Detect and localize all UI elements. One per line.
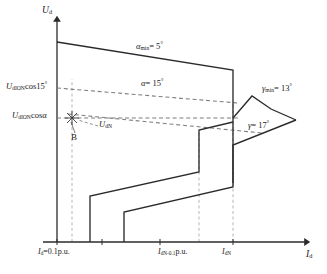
operating-point-b-marker	[65, 111, 79, 125]
alpha-15-label: α= 15°	[141, 78, 163, 87]
u-dn-label: UdN	[99, 120, 112, 130]
solid-characteristics	[57, 42, 296, 242]
reference-gridlines	[72, 79, 233, 242]
y-axis-title: Ud	[42, 6, 52, 16]
vi-characteristic-plot	[0, 0, 327, 274]
alpha-min-label: αmin= 5°	[136, 41, 163, 51]
vdcol-lower-curve	[124, 120, 296, 242]
u-dion-cos-alpha-label: UdIONcosα	[12, 111, 47, 121]
gamma-17-label: γ= 17°	[248, 120, 269, 129]
figure-container: Ud Id αmin= 5° α= 15° γmin= 13° γ= 17° U…	[0, 0, 327, 274]
gamma-min-curve	[233, 96, 296, 120]
axes	[43, 20, 306, 245]
u-dionr-cos15-label: UdIONcos15°	[6, 81, 47, 91]
x-axis-title: Id	[306, 250, 312, 260]
x-tick-label-idn: IdN	[222, 248, 231, 256]
gamma-min-label: γmin= 13°	[262, 83, 292, 93]
x-tick-label-id-0p1: Id=0.1p.u.	[38, 248, 70, 256]
alpha-min-curve	[57, 42, 233, 183]
dashed-characteristics	[57, 88, 262, 133]
u-dn-leader	[78, 120, 98, 126]
vdcol-upper-curve	[90, 122, 233, 242]
x-tick-label-idn-minus-0p1: IdN-0.1p.u.	[158, 248, 187, 256]
alpha-15-line	[57, 88, 238, 103]
operating-point-b-label: B	[71, 133, 77, 142]
